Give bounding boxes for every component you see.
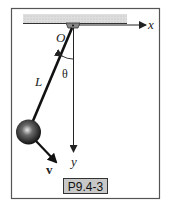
velocity-label: v xyxy=(46,162,53,177)
x-axis-label: x xyxy=(147,17,154,32)
pendulum-diagram: O x L θ y v P9.4-3 xyxy=(0,0,170,201)
ceiling-hatch xyxy=(23,14,127,23)
caption-label: P9.4-3 xyxy=(68,180,104,194)
length-label: L xyxy=(34,74,42,89)
angle-label: θ xyxy=(62,67,68,81)
pendulum-bob xyxy=(16,120,41,145)
pivot-pin-icon xyxy=(72,25,74,27)
figure-frame xyxy=(12,9,160,199)
origin-label: O xyxy=(56,30,66,45)
y-axis-label: y xyxy=(69,154,77,169)
